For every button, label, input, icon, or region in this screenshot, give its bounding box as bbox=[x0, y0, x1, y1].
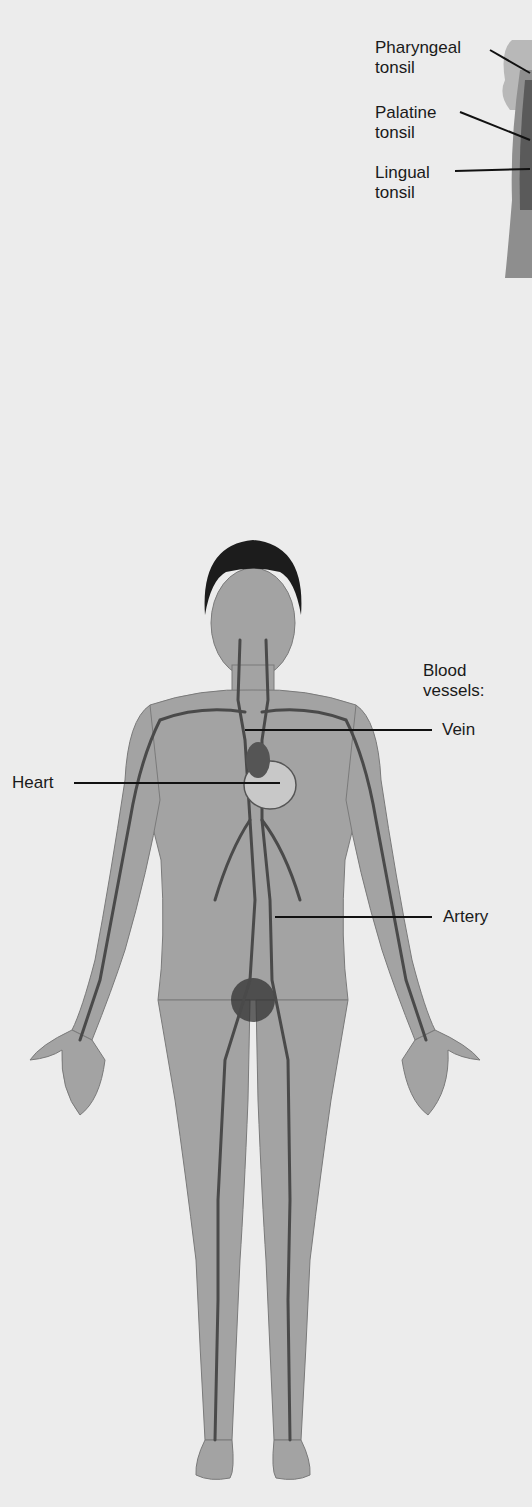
vein-label: Vein bbox=[442, 720, 475, 740]
label-line: Pharyngeal bbox=[375, 38, 461, 58]
artery-label: Artery bbox=[443, 907, 488, 927]
throat-cross-section bbox=[502, 40, 532, 278]
human-body bbox=[30, 568, 480, 1479]
label-line: tonsil bbox=[375, 123, 436, 143]
palatine-tonsil-label: Palatine tonsil bbox=[375, 103, 436, 143]
pharyngeal-tonsil-label: Pharyngeal tonsil bbox=[375, 38, 461, 78]
blood-vessels-group-label: Blood vessels: bbox=[423, 661, 484, 701]
label-line: vessels: bbox=[423, 681, 484, 701]
lingual-tonsil-label: Lingual tonsil bbox=[375, 163, 430, 203]
label-line: Palatine bbox=[375, 103, 436, 123]
label-line: Lingual bbox=[375, 163, 430, 183]
label-line: Blood bbox=[423, 661, 484, 681]
anatomy-illustration bbox=[0, 0, 532, 1507]
label-line: tonsil bbox=[375, 58, 461, 78]
label-line: tonsil bbox=[375, 183, 430, 203]
heart-label: Heart bbox=[12, 773, 54, 793]
